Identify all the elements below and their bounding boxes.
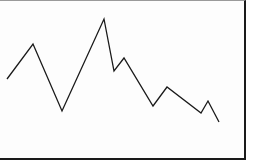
line-chart [0, 0, 261, 168]
series-line [7, 19, 219, 122]
